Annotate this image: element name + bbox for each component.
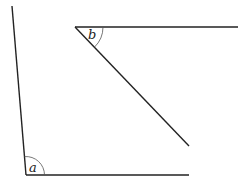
angle-a-label: a <box>29 160 37 175</box>
angle-diagram: a b <box>0 0 240 180</box>
angle-b-ray-diagonal <box>75 27 189 146</box>
angle-a-ray-vertical <box>12 6 26 175</box>
angle-b: b <box>75 27 238 146</box>
angle-a: a <box>12 6 189 175</box>
angle-b-label: b <box>88 27 96 42</box>
